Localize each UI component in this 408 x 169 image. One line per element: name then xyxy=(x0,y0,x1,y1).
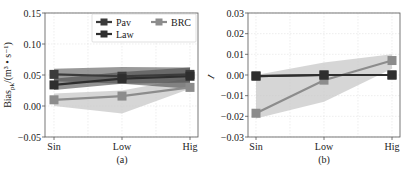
y-tick-label: −0.01 xyxy=(221,90,244,101)
marker-brc xyxy=(118,92,127,101)
legend-label-pav: Pav xyxy=(116,17,131,28)
y-tick-label: 0.03 xyxy=(227,8,245,19)
x-tick-label: Low xyxy=(315,141,334,152)
marker-brc xyxy=(388,56,397,65)
y-tick-label: 0.00 xyxy=(227,70,245,81)
y-label-unit: /(m³ • s⁻¹) xyxy=(2,42,14,83)
x-tick-label: Sin xyxy=(249,141,262,152)
marker-brc xyxy=(186,83,195,92)
marker-law xyxy=(388,71,397,80)
marker-law xyxy=(252,72,261,81)
marker-brc xyxy=(50,95,59,104)
panel-b: −0.03−0.02−0.010.000.010.020.03SinLowHig… xyxy=(205,8,400,167)
panel-label: (a) xyxy=(116,154,127,166)
y-axis-label: Biaspk/(m³ • s⁻¹) xyxy=(2,42,16,108)
y-tick-label: 0.00 xyxy=(24,101,42,112)
y-axis-label: I xyxy=(205,73,217,81)
legend-marker-law xyxy=(101,31,108,38)
band-brc xyxy=(256,54,392,118)
x-tick-label: Low xyxy=(113,141,132,152)
panel-a: −0.050.000.050.100.15SinLowHig(a)Biaspk/… xyxy=(2,8,198,167)
x-tick-label: Hig xyxy=(385,141,400,152)
confidence-bands xyxy=(256,54,392,118)
legend-label-law: Law xyxy=(116,29,135,40)
marker-brc xyxy=(252,109,261,118)
y-tick-label: −0.05 xyxy=(18,132,41,143)
marker-law xyxy=(320,71,329,80)
marker-pav xyxy=(50,70,59,79)
y-tick-label: 0.01 xyxy=(227,49,245,60)
legend-label-brc: BRC xyxy=(171,17,191,28)
y-tick-label: 0.10 xyxy=(24,39,42,50)
legend-marker-pav xyxy=(101,19,108,26)
y-tick-label: 0.15 xyxy=(24,8,42,19)
marker-law xyxy=(186,72,195,81)
figure: −0.050.000.050.100.15SinLowHig(a)Biaspk/… xyxy=(0,0,408,169)
marker-law xyxy=(118,74,127,83)
marker-law xyxy=(50,80,59,89)
y-label-main: Bias xyxy=(2,90,13,108)
y-tick-label: 0.05 xyxy=(24,70,42,81)
legend: PavLawBRC xyxy=(92,14,196,42)
y-tick-label: −0.03 xyxy=(221,132,244,143)
panel-label: (b) xyxy=(318,154,330,166)
x-tick-label: Sin xyxy=(47,141,60,152)
y-tick-label: −0.02 xyxy=(221,111,244,122)
x-tick-label: Hig xyxy=(183,141,198,152)
legend-marker-brc xyxy=(156,19,163,26)
y-tick-label: 0.02 xyxy=(227,28,245,39)
